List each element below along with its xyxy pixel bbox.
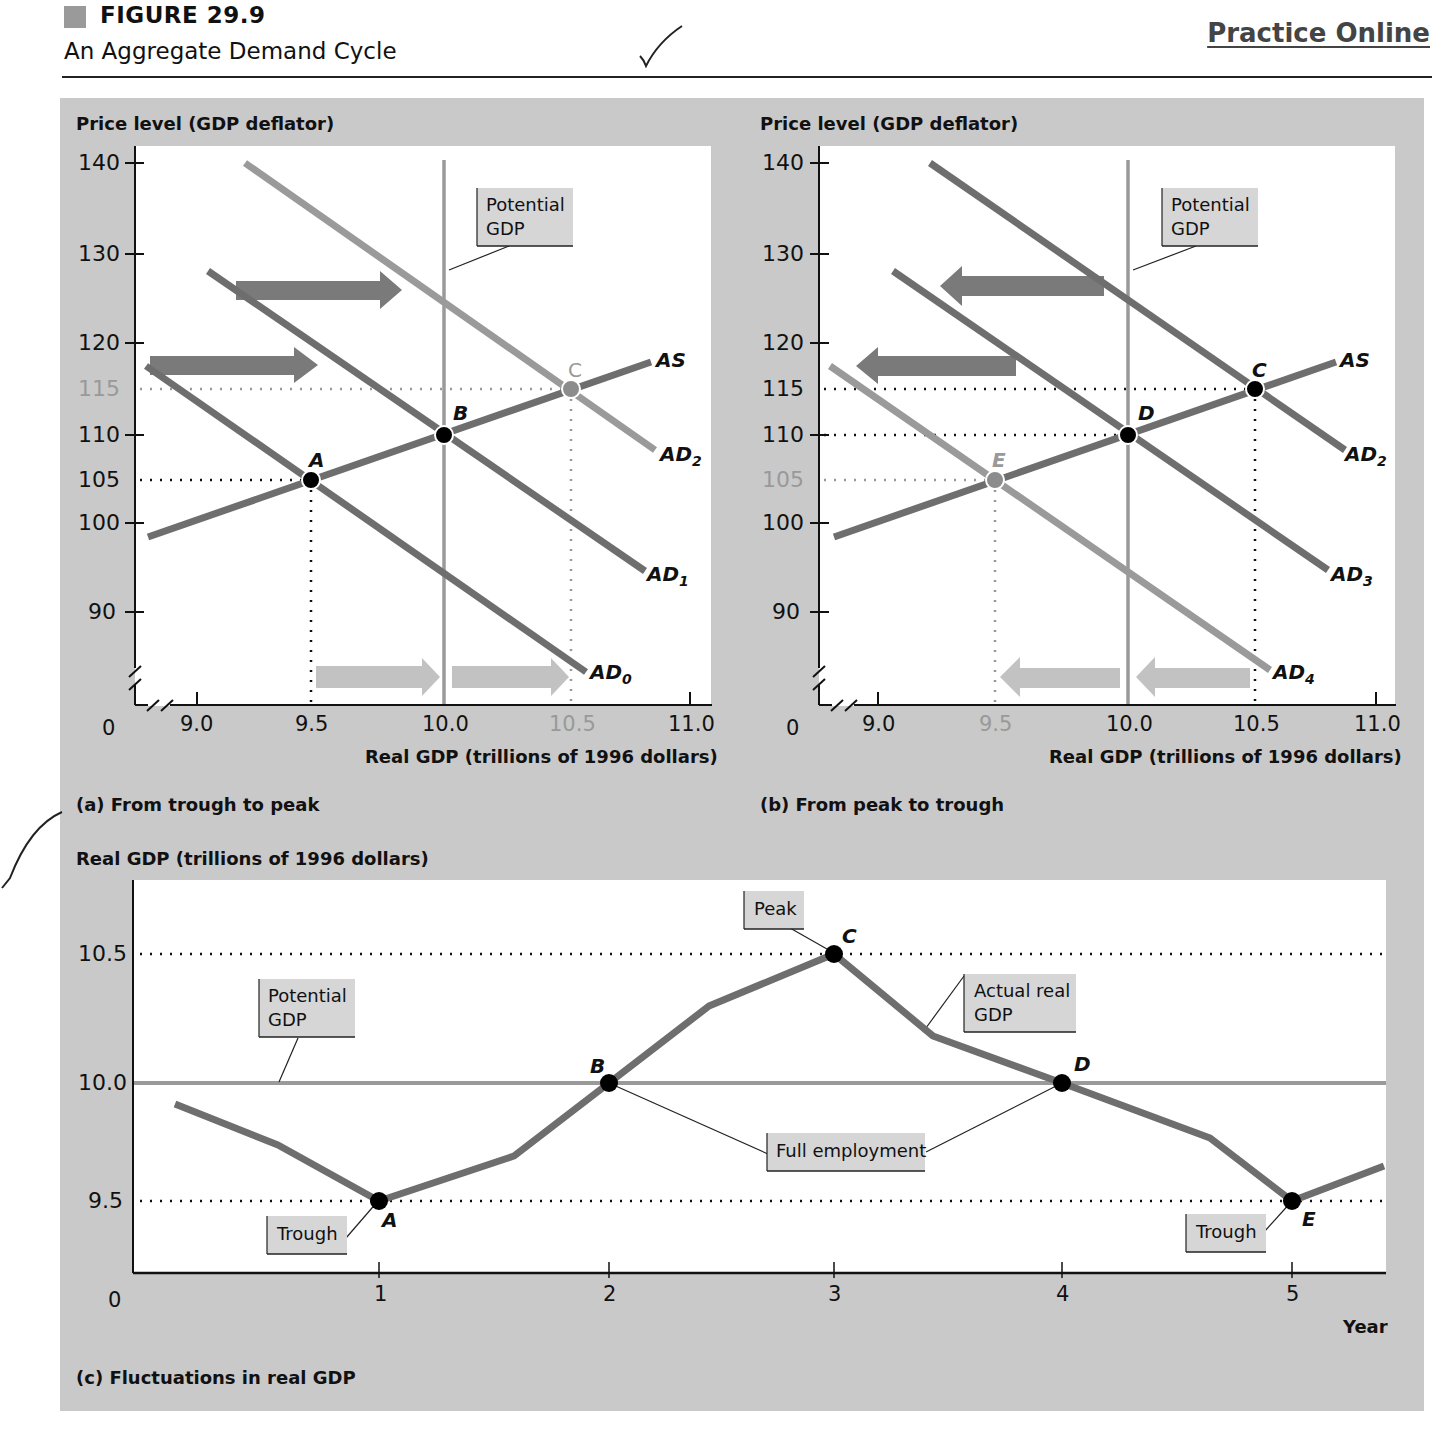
potential-gdp-label: Potential [268, 985, 347, 1006]
point-d-label: D [1138, 401, 1155, 425]
point-e-label: E [992, 448, 1006, 472]
point-d-label: D [1074, 1052, 1091, 1076]
point-a-label: A [382, 1208, 397, 1232]
panel-b-caption: (b) From peak to trough [760, 794, 1004, 815]
point-b-label: B [453, 401, 468, 425]
actual-real-gdp-label: Actual real [974, 980, 1070, 1001]
point-c-label: C [568, 358, 582, 382]
panel-c-xlabel: Year [1343, 1316, 1388, 1337]
ad3-label: AD3 [1331, 562, 1373, 589]
as-label: AS [656, 348, 686, 372]
point-c [825, 945, 843, 963]
potential-gdp-label: Potential [486, 194, 565, 215]
trough-label: Trough [1196, 1221, 1257, 1242]
point-c-label: C [842, 924, 857, 948]
point-c-label: C [1252, 358, 1267, 382]
point-d [1119, 426, 1137, 444]
panel-c-caption: (c) Fluctuations in real GDP [76, 1367, 356, 1388]
point-e-label: E [1302, 1207, 1316, 1231]
ad4-label: AD4 [1273, 660, 1315, 687]
point-a-label: A [309, 448, 324, 472]
point-c [1246, 380, 1264, 398]
ad1-label: AD1 [647, 562, 689, 589]
actual-real-gdp-label: GDP [974, 1004, 1013, 1025]
point-e [1283, 1192, 1301, 1210]
point-d [1053, 1074, 1071, 1092]
point-b [435, 426, 453, 444]
point-c [562, 380, 580, 398]
trough-label: Trough [277, 1223, 338, 1244]
as-label: AS [1340, 348, 1370, 372]
panel-a-caption: (a) From trough to peak [76, 794, 319, 815]
ad0-label: AD0 [590, 660, 632, 687]
full-employment-label: Full employment [776, 1140, 926, 1161]
potential-gdp-label: Potential [1171, 194, 1250, 215]
potential-gdp-label: GDP [268, 1009, 307, 1030]
potential-gdp-label: GDP [1171, 218, 1210, 239]
point-a [302, 471, 320, 489]
peak-label: Peak [754, 898, 797, 919]
panel-b-xlabel: Real GDP (trillions of 1996 dollars) [1049, 746, 1402, 767]
point-e [986, 471, 1004, 489]
potential-gdp-label: GDP [486, 218, 525, 239]
ad2-label: AD2 [1345, 442, 1387, 469]
panel-a-xlabel: Real GDP (trillions of 1996 dollars) [365, 746, 718, 767]
point-b-label: B [590, 1054, 605, 1078]
